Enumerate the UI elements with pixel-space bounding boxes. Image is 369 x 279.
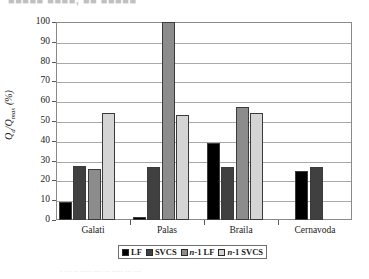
x-axis-category-label: Cernavoda xyxy=(278,224,352,236)
bar-group xyxy=(204,22,278,220)
y-axis-tick-label: 90 xyxy=(6,37,50,47)
y-axis-tick-label: 0 xyxy=(6,215,50,225)
legend-label: LF xyxy=(131,248,142,257)
y-axis-title-slash: / xyxy=(3,126,14,129)
scan-artifact-bottom: · ··· ·· ····· ···· ·· ····· ··· ··· xyxy=(60,268,350,277)
y-axis-title-sub1: d xyxy=(9,129,17,133)
y-axis-tick-label: 10 xyxy=(6,195,50,205)
y-axis-title-sub2: max xyxy=(9,108,17,120)
y-axis-tick-label: 20 xyxy=(6,175,50,185)
bar xyxy=(102,113,115,220)
bar-chart: 0102030405060708090100 Qd/Qmax (%) Galat… xyxy=(0,0,369,279)
legend-item: LF xyxy=(122,248,142,257)
x-axis-category-label: Galati xyxy=(56,224,130,236)
legend-swatch-icon xyxy=(181,249,188,256)
bar-group xyxy=(278,22,352,220)
y-axis-title: Qd/Qmax (%) xyxy=(3,75,17,155)
bar xyxy=(310,167,323,220)
bar xyxy=(133,217,146,220)
bar-group xyxy=(56,22,130,220)
y-axis-title-base1: Q xyxy=(3,133,14,140)
y-axis-title-base2: Q xyxy=(3,119,14,126)
x-axis-category-label: Palas xyxy=(130,224,204,236)
x-axis-labels: GalatiPalasBrailaCernavoda xyxy=(56,224,352,238)
bar xyxy=(207,143,220,220)
bar xyxy=(176,115,189,220)
y-axis-tick xyxy=(52,220,56,221)
legend-item: n-1 LF xyxy=(181,248,215,257)
x-axis-category-label: Braila xyxy=(204,224,278,236)
bar xyxy=(59,202,72,220)
legend-label: n-1 LF xyxy=(190,248,215,257)
bar-group xyxy=(130,22,204,220)
y-axis-tick-label: 100 xyxy=(6,17,50,27)
legend-swatch-icon xyxy=(122,249,129,256)
legend-item: SVCS xyxy=(146,248,177,257)
bar xyxy=(88,169,101,220)
bar xyxy=(295,171,308,221)
legend-label: n-1 SVCS xyxy=(227,248,263,257)
chart-legend: LFSVCSn-1 LFn-1 SVCS xyxy=(118,245,267,259)
bar-series-container xyxy=(56,22,352,220)
bar xyxy=(236,107,249,220)
y-axis-title-unit: (%) xyxy=(3,90,14,108)
y-axis-tick-label: 80 xyxy=(6,57,50,67)
legend-label: SVCS xyxy=(155,248,177,257)
bar xyxy=(221,167,234,220)
bar xyxy=(73,166,86,220)
bar xyxy=(250,113,263,220)
bar xyxy=(162,22,175,220)
legend-item: n-1 SVCS xyxy=(218,248,263,257)
legend-swatch-icon xyxy=(218,249,225,256)
bar xyxy=(147,167,160,220)
y-axis-tick-label: 30 xyxy=(6,156,50,166)
legend-swatch-icon xyxy=(146,249,153,256)
